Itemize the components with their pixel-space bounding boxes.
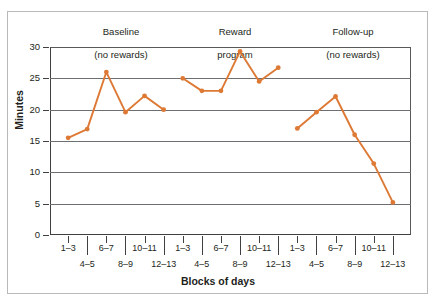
x-tick-label: 10–11 <box>362 243 386 253</box>
y-tick-label: 20 <box>29 105 40 115</box>
y-tick-label: 5 <box>35 199 40 209</box>
series-layer <box>50 47 411 235</box>
phase-label-baseline-line1: Baseline <box>103 26 139 37</box>
y-axis-title: Minutes <box>13 65 25 155</box>
x-tick-mark <box>164 236 165 255</box>
y-tick-label: 0 <box>35 230 40 240</box>
y-tick-label: 10 <box>29 167 40 177</box>
x-tick-label: 12–13 <box>266 259 291 269</box>
x-tick-mark <box>259 236 260 243</box>
y-tick-label: 30 <box>29 42 40 52</box>
data-point <box>219 88 224 93</box>
x-tick-mark <box>336 236 337 243</box>
x-tick-label: 6–7 <box>99 243 114 253</box>
y-tick-mark <box>43 172 49 173</box>
series-line <box>68 72 163 138</box>
x-tick-mark <box>125 236 126 255</box>
x-tick-mark <box>202 236 203 255</box>
data-point <box>352 132 357 137</box>
x-tick-mark <box>240 236 241 255</box>
phase-label-reward-line1: Reward <box>219 26 252 37</box>
data-point <box>85 127 90 132</box>
series-line <box>183 51 279 90</box>
data-point <box>180 76 185 81</box>
data-point <box>142 93 147 98</box>
data-point <box>238 49 243 54</box>
series-line <box>297 97 393 203</box>
data-point <box>390 200 395 205</box>
data-point <box>257 79 262 84</box>
x-tick-label: 4–5 <box>194 259 209 269</box>
x-tick-label: 12–13 <box>380 259 405 269</box>
phase-label-followup-line1: Follow-up <box>332 26 373 37</box>
y-tick-mark <box>43 235 49 236</box>
data-point <box>371 161 376 166</box>
x-tick-label: 6–7 <box>213 243 228 253</box>
x-tick-label: 4–5 <box>309 259 324 269</box>
x-tick-mark <box>87 236 88 255</box>
x-tick-mark <box>278 236 279 255</box>
data-point <box>161 107 166 112</box>
x-tick-label: 12–13 <box>151 259 176 269</box>
x-tick-label: 6–7 <box>328 243 343 253</box>
x-tick-label: 8–9 <box>118 259 133 269</box>
plot-area <box>50 47 411 235</box>
data-point <box>333 94 338 99</box>
x-tick-mark <box>393 236 394 255</box>
x-tick-label: 10–11 <box>132 243 156 253</box>
x-tick-mark <box>297 236 298 243</box>
x-tick-label: 1–3 <box>175 243 190 253</box>
data-point <box>295 126 300 131</box>
data-point <box>314 110 319 115</box>
x-tick-mark <box>374 236 375 243</box>
data-point <box>123 110 128 115</box>
figure-line-chart: Baseline (no rewards) Reward program Fol… <box>0 0 436 306</box>
x-tick-label: 1–3 <box>61 243 76 253</box>
x-tick-label: 1–3 <box>290 243 305 253</box>
x-tick-mark <box>68 236 69 243</box>
x-tick-mark <box>145 236 146 243</box>
y-tick-mark <box>43 78 49 79</box>
y-tick-mark <box>43 141 49 142</box>
x-tick-label: 8–9 <box>233 259 248 269</box>
y-tick-mark <box>43 47 49 48</box>
data-point <box>66 135 71 140</box>
y-tick-mark <box>43 204 49 205</box>
data-point <box>104 70 109 75</box>
x-tick-mark <box>316 236 317 255</box>
x-tick-mark <box>106 236 107 243</box>
x-tick-label: 10–11 <box>247 243 271 253</box>
data-point <box>199 88 204 93</box>
y-tick-label: 25 <box>29 73 40 83</box>
x-tick-label: 4–5 <box>80 259 95 269</box>
x-tick-mark <box>221 236 222 243</box>
data-point <box>276 65 281 70</box>
x-axis-title: Blocks of days <box>0 275 436 287</box>
y-tick-label: 15 <box>29 136 40 146</box>
x-tick-mark <box>183 236 184 243</box>
x-tick-label: 8–9 <box>347 259 362 269</box>
y-tick-mark <box>43 110 49 111</box>
x-tick-mark <box>355 236 356 255</box>
